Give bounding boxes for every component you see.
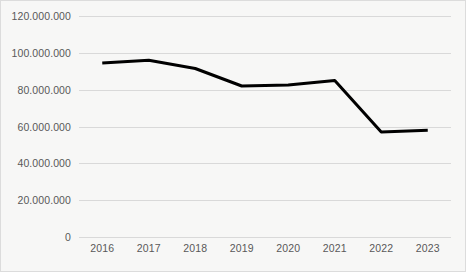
series-line-2016-2023 [102,60,428,132]
x-axis-tick-label: 2018 [183,242,207,254]
x-axis-tick-label: 2023 [416,242,440,254]
series-line-svg [1,1,466,272]
x-axis-tick-label: 2017 [137,242,161,254]
x-axis-tick-label: 2020 [276,242,300,254]
line-chart: 020.000.00040.000.00060.000.00080.000.00… [0,0,466,272]
x-axis-tick-label: 2016 [90,242,114,254]
x-axis-tick-label: 2021 [323,242,347,254]
x-axis-tick-label: 2019 [230,242,254,254]
x-axis-tick-label: 2022 [369,242,393,254]
